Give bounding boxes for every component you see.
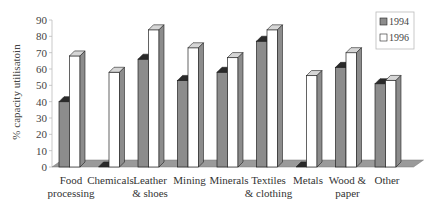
x-axis-labels: FoodprocessingChemicalsLeather& shoesMin… <box>47 174 399 199</box>
x-category-label: Leather <box>133 174 167 186</box>
bar-1996-7 <box>346 48 362 167</box>
bar-1996-5 <box>267 25 283 167</box>
x-category-label: Chemicals <box>87 174 133 186</box>
y-tick-label: 30 <box>36 112 48 124</box>
legend-swatch-1994 <box>380 18 387 25</box>
bar-1996-4 <box>228 53 244 167</box>
y-axis-label: % capacity utilisatoin <box>10 44 22 140</box>
x-category-label: paper <box>335 187 360 199</box>
x-category-label: Other <box>374 174 399 186</box>
x-category-label: Wood & <box>329 174 367 186</box>
x-category-label: Textiles <box>251 174 286 186</box>
x-category-label: & shoes <box>132 187 168 199</box>
x-category-label: Metals <box>293 174 323 186</box>
y-tick-label: 50 <box>36 79 48 91</box>
y-tick-label: 80 <box>36 30 48 42</box>
bar-1996-2 <box>149 25 165 167</box>
x-category-label: Food <box>60 174 83 186</box>
legend-label-1994: 1994 <box>389 16 409 27</box>
bar-1996-1 <box>109 67 125 167</box>
y-tick-label: 20 <box>36 128 48 140</box>
bar-chart: 0102030405060708090 FoodprocessingChemic… <box>0 0 435 209</box>
legend-swatch-1996 <box>380 34 387 41</box>
x-category-label: & clothing <box>245 187 293 199</box>
y-tick-label: 90 <box>36 14 48 26</box>
bar-1996-0 <box>70 51 86 167</box>
legend-label-1996: 1996 <box>389 32 409 43</box>
y-tick-label: 70 <box>36 47 48 59</box>
legend: 1994 1996 <box>376 12 414 49</box>
x-category-label: Mining <box>173 174 206 186</box>
y-tick-label: 10 <box>36 145 48 157</box>
bars <box>59 25 401 167</box>
y-axis: 0102030405060708090 <box>36 14 52 173</box>
bar-1996-3 <box>188 43 204 167</box>
bar-1996-8 <box>386 75 402 167</box>
y-tick-label: 40 <box>36 96 48 108</box>
x-category-label: Minerals <box>209 174 248 186</box>
x-category-label: processing <box>47 187 95 199</box>
y-tick-label: 0 <box>42 161 48 173</box>
y-tick-label: 60 <box>36 63 48 75</box>
bar-1996-6 <box>307 71 323 167</box>
